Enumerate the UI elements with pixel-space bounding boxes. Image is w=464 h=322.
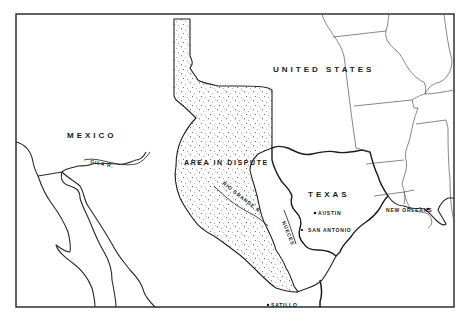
- city-new-orleans: NEW ORLEANS: [386, 207, 432, 213]
- label-united-states: UNITED STATES: [273, 65, 374, 74]
- label-area-in-dispute: AREA IN DISPUTE: [184, 159, 269, 166]
- city-austin: AUSTIN: [314, 210, 342, 216]
- city-marker-icon: [267, 304, 269, 306]
- svg-text:SAN ANTONIO: SAN ANTONIO: [308, 227, 352, 233]
- label-texas: TEXAS: [308, 190, 350, 199]
- svg-text:AUSTIN: AUSTIN: [318, 210, 341, 216]
- gulf-coast-mexico: [296, 256, 336, 292]
- baja-california-coastline: [16, 142, 155, 307]
- label-mexico: MEXICO: [67, 131, 117, 140]
- label-gila-river: GILA R.: [90, 158, 114, 169]
- label-nueces-river: NUECES: [281, 220, 296, 246]
- city-satillo: SATILLO: [267, 302, 298, 308]
- city-marker-icon: [301, 229, 303, 231]
- mexico-border-south: [320, 280, 322, 307]
- map-of-disputed-territory: UNITED STATES MEXICO AREA IN DISPUTE TEX…: [0, 0, 464, 322]
- city-san-antonio: SAN ANTONIO: [301, 227, 352, 233]
- city-marker-icon: [314, 212, 317, 215]
- svg-text:NEW ORLEANS: NEW ORLEANS: [386, 207, 432, 213]
- svg-text:SATILLO: SATILLO: [271, 302, 298, 308]
